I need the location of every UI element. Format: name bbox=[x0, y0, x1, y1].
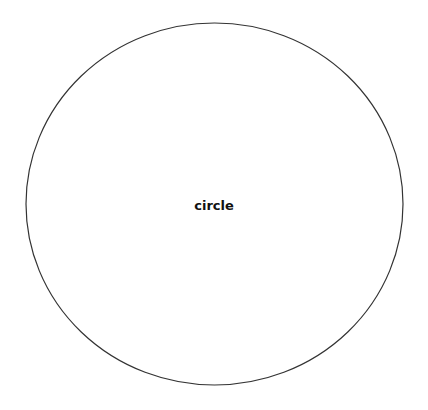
circle-label: circle bbox=[194, 198, 234, 213]
diagram-canvas: circle bbox=[0, 0, 428, 410]
